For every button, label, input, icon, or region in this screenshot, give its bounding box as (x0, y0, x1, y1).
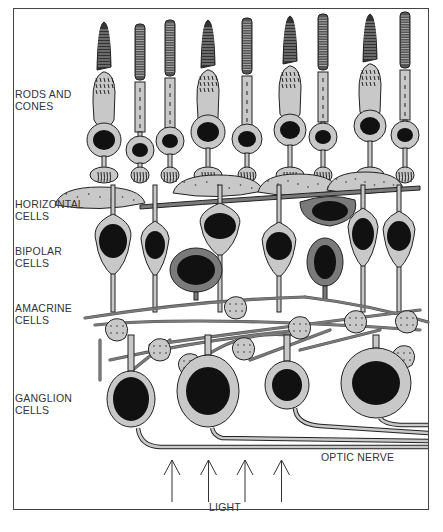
synaptic-ribbon (137, 172, 138, 182)
synaptic-ribbon (164, 172, 165, 182)
stipple-dot (159, 345, 161, 347)
stipple-dot (65, 193, 67, 195)
synaptic-ribbon (107, 172, 108, 182)
stipple-dot (122, 325, 124, 327)
stipple-dot (361, 324, 363, 326)
stipple-dot (235, 310, 237, 312)
bipolar-nucleus (387, 221, 411, 251)
label-line: CELLS (15, 404, 72, 416)
stipple-dot (374, 184, 376, 186)
synaptic-ribbon (98, 172, 99, 182)
bipolar-nucleus (352, 218, 374, 250)
amacrine-cell-nucleus (314, 245, 336, 279)
label-line: AMACRINE (15, 302, 72, 314)
rod-outer-segment (242, 18, 252, 74)
rod-cell (232, 18, 262, 183)
stipple-dot (133, 199, 135, 201)
stipple-dot (403, 352, 405, 354)
synaptic-ribbon (167, 172, 168, 182)
rod-cell (309, 14, 337, 183)
stipple-dot (240, 184, 242, 186)
synaptic-ribbon (411, 172, 412, 182)
stipple-dot (235, 303, 237, 305)
bipolar-axon (153, 275, 157, 312)
stipple-dot (249, 344, 251, 346)
bipolar-terminal (395, 311, 417, 333)
rod-cell (391, 12, 419, 183)
synaptic-ribbon (405, 172, 406, 182)
stipple-dot (297, 183, 299, 185)
stipple-dot (241, 310, 243, 312)
photoreceptor-nucleus (197, 122, 219, 142)
stipple-dot (336, 178, 338, 180)
synaptic-ribbon (143, 172, 144, 182)
label-line: RODS AND (15, 88, 71, 100)
stipple-dot (267, 180, 269, 182)
synaptic-ribbon (173, 172, 174, 182)
stipple-dot (412, 324, 414, 326)
amacrine-fiber-core (300, 330, 380, 350)
label-light: LIGHT (209, 501, 241, 513)
synaptic-ribbon (408, 172, 409, 182)
stipple-dot (293, 323, 295, 325)
label-line: BIPOLAR (15, 245, 62, 257)
label-horizontal-cells: HORIZONTAL CELLS (15, 198, 84, 222)
stipple-dot (206, 181, 208, 183)
rod-cell (156, 20, 184, 183)
bipolar-terminal (344, 311, 366, 333)
label-line: CELLS (15, 314, 72, 326)
rod-outer-segment (318, 14, 328, 70)
stipple-dot (305, 323, 307, 325)
synaptic-ribbon (399, 172, 400, 182)
bipolar-axon (277, 276, 281, 312)
stipple-dot (251, 187, 253, 189)
stipple-dot (299, 323, 301, 325)
rod-outer-segment (135, 24, 145, 80)
synaptic-ribbon (402, 172, 403, 182)
light-arrow (164, 460, 180, 502)
photoreceptor-layer (87, 12, 419, 183)
photoreceptor-nucleus (315, 130, 331, 144)
label-line: HORIZONTAL (15, 198, 84, 210)
bipolar-nucleus (145, 231, 165, 259)
ganglion-nucleus (272, 369, 302, 401)
synaptic-ribbon (176, 172, 177, 182)
stipple-dot (406, 324, 408, 326)
stipple-dot (159, 352, 161, 354)
bipolar-terminal (232, 338, 254, 360)
stipple-dot (406, 317, 408, 319)
synaptic-ribbon (101, 172, 102, 182)
stipple-dot (99, 196, 101, 198)
stipple-dot (361, 317, 363, 319)
stipple-dot (183, 360, 185, 362)
amacrine-cell-nucleus (177, 255, 215, 285)
ganglion-nucleus (113, 377, 149, 421)
stipple-dot (409, 352, 411, 354)
stipple-dot (287, 180, 289, 182)
label-rods-and-cones: RODS AND CONES (15, 88, 71, 112)
stipple-dot (243, 351, 245, 353)
label-ganglion-cells: GANGLION CELLS (15, 392, 72, 416)
stipple-dot (249, 351, 251, 353)
bipolar-cell-layer (95, 185, 415, 312)
stipple-dot (307, 186, 309, 188)
ganglion-dendrite (373, 335, 379, 348)
stipple-dot (349, 317, 351, 319)
stipple-dot (355, 317, 357, 319)
stipple-dot (153, 345, 155, 347)
cone-cell (191, 20, 225, 183)
stipple-dot (110, 332, 112, 334)
photoreceptor-nucleus (162, 134, 178, 148)
stipple-dot (364, 181, 366, 183)
label-line: GANGLION (15, 392, 72, 404)
synaptic-ribbon (170, 172, 171, 182)
stipple-dot (305, 330, 307, 332)
cone-cell (354, 14, 386, 183)
bipolar-terminal (148, 339, 170, 361)
stipple-dot (195, 184, 197, 186)
stipple-dot (299, 330, 301, 332)
ganglion-dendrite (284, 335, 290, 361)
label-amacrine-cells: AMACRINE CELLS (15, 302, 72, 326)
amacrine-stem (194, 292, 198, 300)
stipple-dot (412, 317, 414, 319)
